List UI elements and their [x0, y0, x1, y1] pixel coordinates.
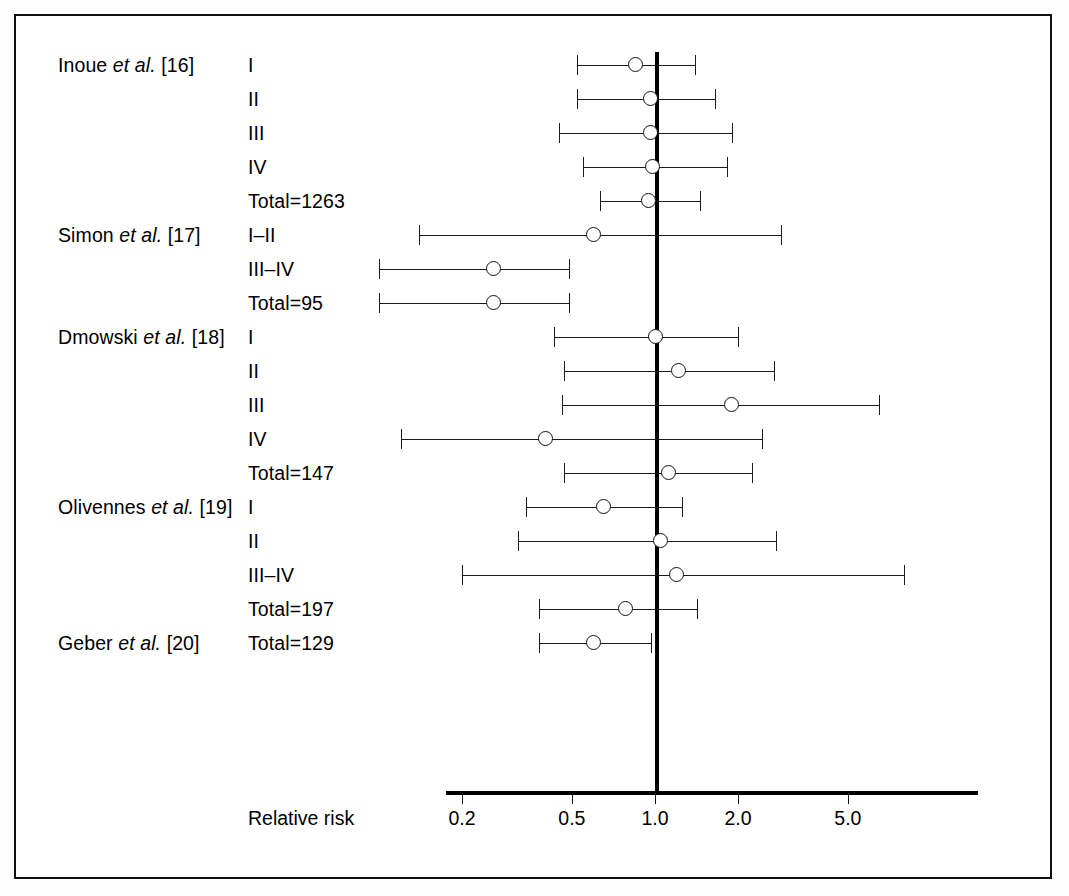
point-estimate-marker	[596, 499, 611, 514]
ci-lower-cap	[539, 599, 540, 619]
study-label	[58, 592, 248, 626]
stage-label: II	[248, 82, 259, 116]
study-label	[58, 184, 248, 218]
ci-lower-cap	[401, 429, 402, 449]
confidence-interval-line	[554, 337, 738, 338]
forest-row: II	[16, 524, 1054, 558]
stage-label: Total=147	[248, 456, 334, 490]
stage-label: I	[248, 48, 254, 82]
stage-label: I	[248, 320, 254, 354]
ci-lower-cap	[462, 565, 463, 585]
x-axis-tick-label: 1.0	[620, 807, 690, 830]
ci-lower-cap	[577, 89, 578, 109]
x-axis-line	[446, 791, 978, 795]
ci-lower-cap	[562, 395, 563, 415]
forest-row: Total=197	[16, 592, 1054, 626]
point-estimate-marker	[486, 295, 501, 310]
ci-upper-cap	[569, 293, 570, 313]
study-label	[58, 252, 248, 286]
ci-lower-cap	[577, 55, 578, 75]
stage-label: Total=197	[248, 592, 334, 626]
confidence-interval-line	[564, 371, 774, 372]
stage-label: III	[248, 116, 265, 150]
point-estimate-marker	[671, 363, 686, 378]
point-estimate-marker	[724, 397, 739, 412]
ci-upper-cap	[776, 531, 777, 551]
study-label	[58, 422, 248, 456]
ci-upper-cap	[738, 327, 739, 347]
ci-upper-cap	[904, 565, 905, 585]
study-name: Geber	[58, 632, 118, 654]
stage-label: I	[248, 490, 254, 524]
ci-lower-cap	[559, 123, 560, 143]
confidence-interval-line	[518, 541, 776, 542]
forest-row: Dmowski et al. [18]I	[16, 320, 1054, 354]
confidence-interval-line	[379, 269, 569, 270]
study-citation: [20]	[161, 632, 199, 654]
forest-row: III–IV	[16, 252, 1054, 286]
forest-row: Total=1263	[16, 184, 1054, 218]
study-label	[58, 524, 248, 558]
forest-row: III	[16, 388, 1054, 422]
forest-row: III	[16, 116, 1054, 150]
point-estimate-marker	[486, 261, 501, 276]
forest-row: II	[16, 82, 1054, 116]
stage-label: Total=1263	[248, 184, 345, 218]
study-label	[58, 558, 248, 592]
ci-lower-cap	[564, 361, 565, 381]
x-axis-tick-label: 2.0	[703, 807, 773, 830]
stage-label: IV	[248, 422, 267, 456]
study-label	[58, 150, 248, 184]
point-estimate-marker	[661, 465, 676, 480]
ci-lower-cap	[564, 463, 565, 483]
forest-row: Inoue et al. [16]I	[16, 48, 1054, 82]
et-al-text: et al.	[143, 326, 186, 348]
study-label: Dmowski et al. [18]	[58, 320, 248, 354]
point-estimate-marker	[641, 193, 656, 208]
study-name: Dmowski	[58, 326, 143, 348]
ci-lower-cap	[600, 191, 601, 211]
point-estimate-marker	[586, 635, 601, 650]
study-label: Geber et al. [20]	[58, 626, 248, 660]
confidence-interval-line	[564, 473, 752, 474]
stage-label: II	[248, 524, 259, 558]
study-label	[58, 82, 248, 116]
study-name: Olivennes	[58, 496, 151, 518]
ci-lower-cap	[526, 497, 527, 517]
study-label: Olivennes et al. [19]	[58, 490, 248, 524]
study-label	[58, 116, 248, 150]
study-citation: [19]	[194, 496, 232, 518]
point-estimate-marker	[643, 125, 658, 140]
forest-plot: Inoue et al. [16]IIIIIIIVTotal=1263Simon…	[16, 16, 1054, 881]
et-al-text: et al.	[119, 224, 162, 246]
ci-upper-cap	[697, 599, 698, 619]
point-estimate-marker	[645, 159, 660, 174]
study-citation: [17]	[162, 224, 200, 246]
ci-lower-cap	[379, 293, 380, 313]
ci-upper-cap	[700, 191, 701, 211]
et-al-text: et al.	[118, 632, 161, 654]
point-estimate-marker	[643, 91, 658, 106]
forest-row: Simon et al. [17]I–II	[16, 218, 1054, 252]
forest-row: Total=147	[16, 456, 1054, 490]
study-label	[58, 456, 248, 490]
ci-upper-cap	[879, 395, 880, 415]
ci-upper-cap	[781, 225, 782, 245]
stage-label: Total=129	[248, 626, 334, 660]
stage-label: II	[248, 354, 259, 388]
point-estimate-marker	[669, 567, 684, 582]
ci-upper-cap	[682, 497, 683, 517]
x-axis-tick-label: 5.0	[813, 807, 883, 830]
ci-lower-cap	[583, 157, 584, 177]
x-axis-tick	[572, 793, 573, 804]
et-al-text: et al.	[113, 54, 156, 76]
point-estimate-marker	[628, 57, 643, 72]
study-label	[58, 286, 248, 320]
stage-label: IV	[248, 150, 267, 184]
forest-row: IV	[16, 150, 1054, 184]
ci-upper-cap	[715, 89, 716, 109]
point-estimate-marker	[618, 601, 633, 616]
ci-upper-cap	[762, 429, 763, 449]
study-citation: [18]	[186, 326, 224, 348]
point-estimate-marker	[653, 533, 668, 548]
